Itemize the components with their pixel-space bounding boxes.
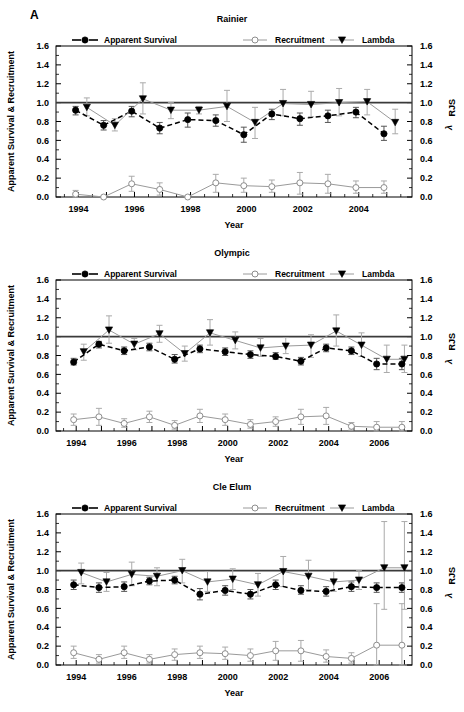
data-point <box>381 131 387 137</box>
y-tick-label-left: 1.4 <box>36 60 49 70</box>
data-point <box>213 180 219 186</box>
data-point <box>241 183 247 189</box>
legend-item-recruitment[interactable]: Recruitment <box>243 35 325 45</box>
x-tick-label: 2000 <box>218 672 238 682</box>
legend-item-apparent_survival[interactable]: Apparent Survival <box>72 35 177 45</box>
data-point <box>197 650 203 656</box>
data-point <box>399 585 405 591</box>
data-point <box>241 132 247 138</box>
legend-label-apparent_survival: Apparent Survival <box>104 503 177 513</box>
data-point <box>247 421 253 427</box>
data-point <box>71 359 77 365</box>
data-point <box>96 585 102 591</box>
data-point <box>197 413 203 419</box>
data-point <box>146 578 152 584</box>
y-tick-label-right: 1.2 <box>420 547 433 557</box>
data-point <box>172 422 178 428</box>
legend-item-apparent_survival[interactable]: Apparent Survival <box>72 503 177 513</box>
data-point <box>121 420 127 426</box>
series-markers-lambda <box>78 565 408 588</box>
y-tick-label-left: 1.2 <box>36 79 49 89</box>
data-point <box>172 577 178 583</box>
legend-item-lambda[interactable]: Lambda <box>330 35 395 45</box>
y-tick-label-right: 0.0 <box>420 660 433 670</box>
y-tick-label-left: 0.4 <box>36 388 49 398</box>
legend-marker-open-circle <box>252 271 258 277</box>
data-point <box>348 348 354 354</box>
x-tick-label: 2004 <box>349 204 369 214</box>
x-tick-label: 1996 <box>124 204 144 214</box>
data-point <box>297 116 303 122</box>
x-tick-label: 1994 <box>66 438 86 448</box>
legend-item-lambda[interactable]: Lambda <box>330 503 395 513</box>
data-point <box>197 346 203 352</box>
legend: Apparent SurvivalRecruitmentLambda <box>72 269 395 279</box>
y-tick-label-right: 0.4 <box>420 154 433 164</box>
data-point <box>298 414 304 420</box>
data-point <box>298 648 304 654</box>
legend-item-recruitment[interactable]: Recruitment <box>243 269 325 279</box>
data-point <box>96 414 102 420</box>
error-bars-lambda <box>78 522 407 610</box>
legend-item-apparent_survival[interactable]: Apparent Survival <box>72 269 177 279</box>
legend-label-apparent_survival: Apparent Survival <box>104 35 177 45</box>
legend-marker-filled-circle <box>82 505 88 511</box>
y-tick-label-right: 1.6 <box>420 41 433 51</box>
legend-label-recruitment: Recruitment <box>275 503 325 513</box>
data-point <box>374 361 380 367</box>
data-point <box>185 117 191 123</box>
data-point <box>146 344 152 350</box>
y-tick-label-right: 0.6 <box>420 370 433 380</box>
lambda-symbol: λ <box>444 593 454 599</box>
legend-item-recruitment[interactable]: Recruitment <box>243 503 325 513</box>
data-point <box>323 413 329 419</box>
data-point <box>273 419 279 425</box>
data-point <box>96 656 102 662</box>
data-point <box>358 342 365 349</box>
data-point <box>222 349 228 355</box>
y-tick-label-left: 1.2 <box>36 547 49 557</box>
data-point <box>121 348 127 354</box>
data-point <box>185 194 191 200</box>
plot-area: 1.61.61.41.41.21.21.01.00.80.80.60.60.40… <box>0 234 464 468</box>
x-tick-label: 1998 <box>167 438 187 448</box>
data-point <box>121 584 127 590</box>
data-point <box>374 642 380 648</box>
panel-rainier: A Rainier 1.61.61.41.41.21.21.01.00.80.8… <box>0 0 464 234</box>
data-point <box>348 584 354 590</box>
x-axis-title: Year <box>224 688 244 698</box>
y-tick-label-left: 0.6 <box>36 604 49 614</box>
data-point <box>146 414 152 420</box>
data-point <box>172 652 178 658</box>
series-markers-apparent-survival <box>71 341 405 367</box>
data-point <box>96 341 102 347</box>
x-tick-label: 1998 <box>167 672 187 682</box>
x-axis-title: Year <box>224 220 244 230</box>
y-tick-label-right: 1.6 <box>420 509 433 519</box>
data-point <box>222 651 228 657</box>
data-point <box>273 648 279 654</box>
data-point <box>232 337 239 344</box>
data-point <box>325 181 331 187</box>
y-tick-label-right: 1.2 <box>420 79 433 89</box>
series-markers-lambda <box>80 327 408 363</box>
data-point <box>121 650 127 656</box>
y-tick-label-left: 0.6 <box>36 136 49 146</box>
x-tick-label: 2000 <box>237 204 257 214</box>
data-point <box>247 351 253 357</box>
legend-marker-filled-circle <box>82 271 88 277</box>
y-tick-label-left: 1.6 <box>36 509 49 519</box>
legend-item-lambda[interactable]: Lambda <box>330 269 395 279</box>
x-tick-label: 2006 <box>369 672 389 682</box>
lambda-subscript: RJS <box>447 567 457 585</box>
plot-area: 1.61.61.41.41.21.21.01.00.80.80.60.60.40… <box>0 0 464 234</box>
y-tick-label-right: 0.2 <box>420 173 433 183</box>
x-tick-label: 2006 <box>369 438 389 448</box>
y-tick-label-left: 1.0 <box>36 98 49 108</box>
error-bars-recruitment <box>71 407 405 431</box>
lambda-subscript: RJS <box>447 99 457 117</box>
data-point <box>298 587 304 593</box>
data-point <box>348 423 354 429</box>
data-point <box>157 186 163 192</box>
figure-container: A Rainier 1.61.61.41.41.21.21.01.00.80.8… <box>0 0 464 712</box>
